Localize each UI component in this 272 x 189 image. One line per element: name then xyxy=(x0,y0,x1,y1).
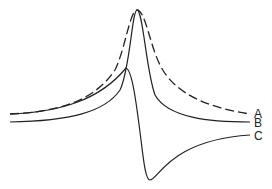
curve-a xyxy=(10,10,250,114)
curve-c xyxy=(10,68,250,180)
label-c: C xyxy=(254,129,263,143)
lineshape-diagram: A B C xyxy=(0,0,272,189)
label-b: B xyxy=(254,116,262,130)
